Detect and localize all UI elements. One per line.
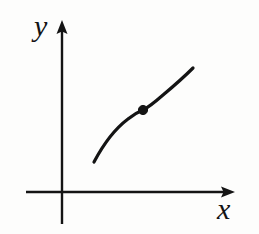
y-axis-label: y — [34, 11, 47, 41]
inflection-point-marker — [138, 105, 147, 114]
x-axis-label: x — [217, 194, 230, 224]
figure-container: y x — [0, 0, 259, 234]
